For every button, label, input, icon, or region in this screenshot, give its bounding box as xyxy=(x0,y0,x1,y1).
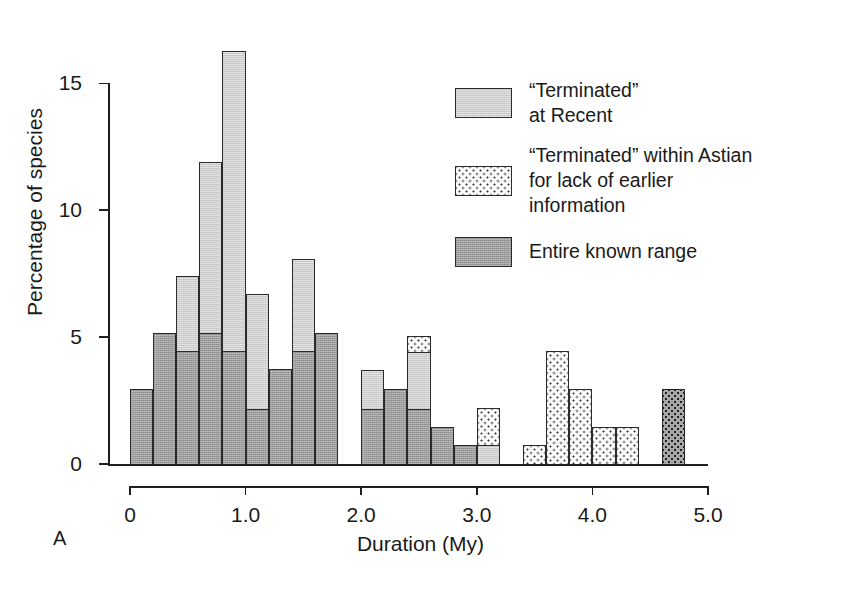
legend-swatch-astian xyxy=(455,166,512,196)
bar-segment-entire-known-range xyxy=(246,409,269,465)
x-baseline xyxy=(108,464,708,466)
x-tick-4 xyxy=(592,486,594,495)
histogram-bar xyxy=(592,426,615,464)
x-tick-1 xyxy=(245,486,247,495)
histogram-bar xyxy=(222,48,245,464)
bar-segment-terminated-at-recent xyxy=(361,370,384,411)
bar-segment-terminated-at-recent xyxy=(176,276,199,352)
y-tick-15 xyxy=(99,83,108,85)
bar-segment-entire-known-range xyxy=(153,333,176,465)
bar-segment-terminated-within-astian xyxy=(477,408,500,446)
bar-segment-entire-known-range xyxy=(222,351,245,465)
legend-label-recent: “Terminated” at Recent xyxy=(529,78,638,129)
histogram-bar xyxy=(292,256,315,464)
legend-item-entire: Entire known range xyxy=(455,237,825,267)
x-tick-3 xyxy=(476,486,478,495)
histogram-bar xyxy=(546,350,569,464)
x-tick-label-5.0: 5.0 xyxy=(673,504,743,525)
y-tick-5 xyxy=(99,336,108,338)
x-tick-label-3.0: 3.0 xyxy=(442,504,512,525)
bar-segment-entire-known-range xyxy=(292,351,315,465)
histogram-bar xyxy=(199,160,222,464)
bar-segment-entire-known-range xyxy=(384,389,407,465)
x-tick-label-1.0: 1.0 xyxy=(211,504,281,525)
bar-segment-terminated-within-astian xyxy=(546,351,569,465)
histogram-bar xyxy=(569,388,592,464)
chart-legend: “Terminated” at Recent“Terminated” withi… xyxy=(455,78,825,281)
bar-segment-terminated-at-recent xyxy=(199,162,222,335)
figure-panel-a: 05101501.02.03.04.05.0 Percentage of spe… xyxy=(0,0,841,605)
x-axis-title: Duration (My) xyxy=(0,532,841,556)
bar-segment-entire-known-range xyxy=(269,369,292,465)
histogram-bar xyxy=(130,388,153,464)
bar-segment-terminated-within-astian xyxy=(569,389,592,465)
histogram-bar xyxy=(246,291,269,464)
bar-segment-terminated-at-recent xyxy=(407,352,430,410)
legend-swatch-recent xyxy=(455,88,512,118)
histogram-bar xyxy=(361,368,384,464)
bar-segment-terminated-within-astian xyxy=(407,336,430,354)
bar-segment-entire-known-range xyxy=(431,427,454,465)
bar-segment-entire-known-range xyxy=(130,389,153,465)
x-tick-label-4.0: 4.0 xyxy=(557,504,627,525)
x-tick-label-2.0: 2.0 xyxy=(326,504,396,525)
y-tick-10 xyxy=(99,209,108,211)
legend-label-entire: Entire known range xyxy=(529,239,697,264)
histogram-bar xyxy=(315,332,338,464)
histogram-bar xyxy=(176,274,199,464)
bar-segment-entire-known-range xyxy=(176,351,199,465)
bar-segment-terminated-within-astian xyxy=(592,427,615,465)
histogram-bar xyxy=(269,368,292,464)
histogram-bar xyxy=(407,332,430,464)
legend-item-recent: “Terminated” at Recent xyxy=(455,78,825,129)
y-tick-label-0: 0 xyxy=(22,453,82,474)
bar-segment-terminated-at-recent xyxy=(222,51,245,353)
histogram-bar xyxy=(477,408,500,464)
histogram-bar xyxy=(523,444,546,464)
bar-segment-entire-known-range xyxy=(361,409,384,465)
histogram-bar xyxy=(153,332,176,464)
bar-segment-entire-known-range xyxy=(407,409,430,465)
panel-label: A xyxy=(53,527,66,550)
x-tick-2 xyxy=(360,486,362,495)
legend-swatch-entire xyxy=(455,237,512,267)
bar-segment-terminated-within-astian xyxy=(523,445,546,465)
bar-segment-terminal-bin-stippled xyxy=(662,389,685,465)
x-tick-label-0: 0 xyxy=(95,504,165,525)
histogram-bar xyxy=(431,426,454,464)
bar-segment-terminated-within-astian xyxy=(616,427,639,465)
bar-segment-entire-known-range xyxy=(315,333,338,465)
bar-segment-terminated-at-recent xyxy=(292,259,315,353)
bar-segment-entire-known-range xyxy=(454,445,477,465)
legend-label-astian: “Terminated” within Astian for lack of e… xyxy=(529,143,752,219)
bar-segment-terminated-at-recent xyxy=(477,445,500,465)
histogram-bar xyxy=(616,426,639,464)
histogram-bar xyxy=(662,388,685,464)
y-tick-0 xyxy=(99,463,108,465)
bar-segment-entire-known-range xyxy=(199,333,222,465)
x-tick-5 xyxy=(707,486,709,495)
y-axis-spine xyxy=(108,83,110,464)
bar-segment-terminated-at-recent xyxy=(246,294,269,411)
y-axis-title: Percentage of species xyxy=(23,82,47,342)
x-tick-0 xyxy=(129,486,131,495)
legend-item-astian: “Terminated” within Astian for lack of e… xyxy=(455,143,825,219)
histogram-bar xyxy=(384,388,407,464)
histogram-bar xyxy=(454,444,477,464)
x-axis-spine xyxy=(130,486,708,488)
